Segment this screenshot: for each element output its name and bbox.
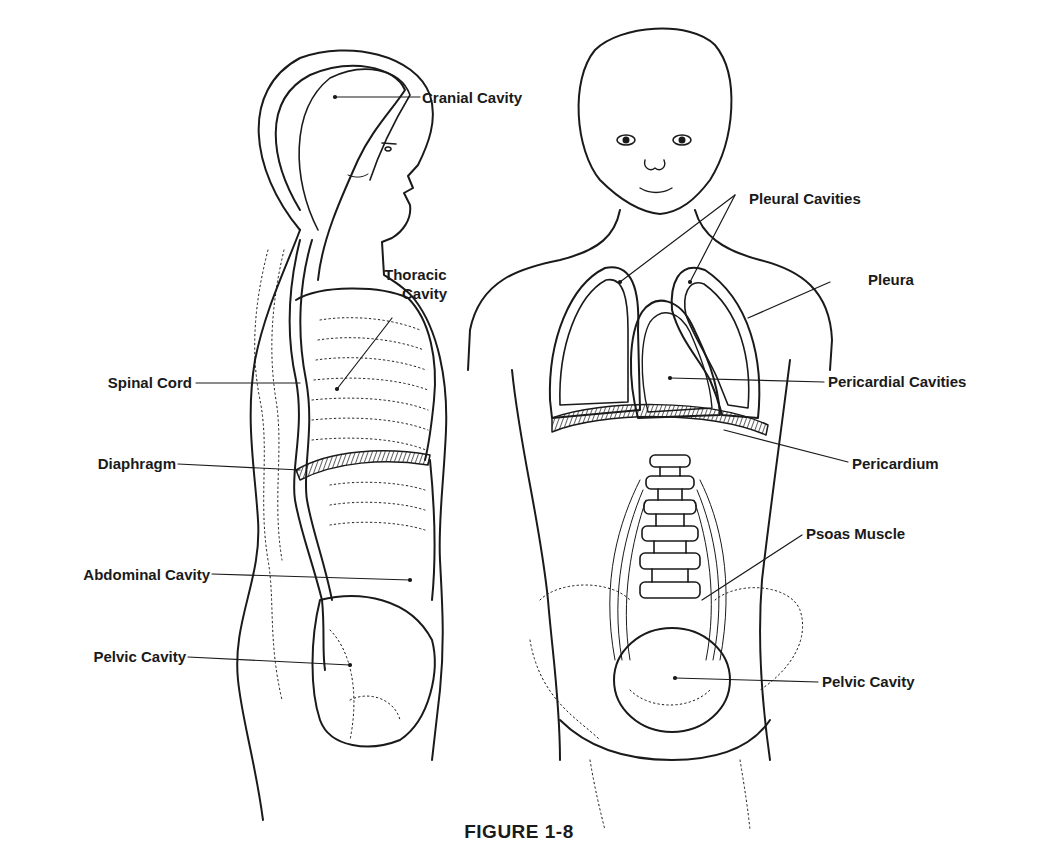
anatomy-illustration — [0, 0, 1038, 866]
label-pleura: Pleura — [868, 271, 914, 289]
label-front-pelvic-cavity: Pelvic Cavity — [822, 673, 915, 691]
side-diaphragm — [296, 451, 430, 480]
label-thoracic-cavity-line2: Cavity — [402, 285, 447, 303]
label-psoas-muscle: Psoas Muscle — [806, 525, 905, 543]
label-thoracic-cavity-line1: Thoracic — [384, 266, 447, 284]
label-pleural-cavities: Pleural Cavities — [749, 190, 861, 208]
side-view-figure — [178, 50, 446, 820]
figure-caption: FIGURE 1-8 — [0, 821, 1038, 843]
side-body-outline — [259, 50, 447, 760]
label-side-pelvic-cavity: Pelvic Cavity — [40, 648, 186, 666]
left-lung — [550, 267, 640, 418]
front-pelvic-bowl — [614, 628, 730, 732]
front-diaphragm — [552, 405, 768, 435]
label-spinal-cord: Spinal Cord — [72, 374, 192, 392]
label-cranial-cavity: Cranial Cavity — [422, 89, 522, 107]
lumbar-spine — [640, 455, 700, 598]
right-lung — [672, 268, 760, 418]
front-view-figure — [468, 29, 848, 830]
front-head-outline — [579, 29, 732, 214]
label-abdominal-cavity: Abdominal Cavity — [10, 566, 210, 584]
label-diaphragm: Diaphragm — [58, 455, 176, 473]
label-pericardial-cavities: Pericardial Cavities — [828, 373, 966, 391]
label-pericardium: Pericardium — [852, 455, 939, 473]
